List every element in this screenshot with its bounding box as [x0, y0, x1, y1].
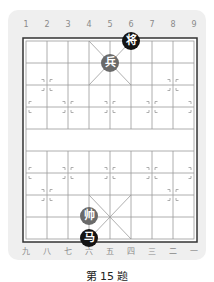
- xiangqi-board: [0, 0, 214, 282]
- red-soldier-piece[interactable]: 兵: [101, 54, 119, 72]
- red-general-piece[interactable]: 帅: [80, 207, 98, 225]
- file-label-6-cn: 六: [82, 247, 96, 257]
- file-label-5-cn: 五: [103, 247, 117, 257]
- black-horse-piece[interactable]: 马: [80, 229, 98, 247]
- file-label-9-cn: 九: [19, 247, 33, 257]
- puzzle-caption: 第 15 题: [0, 271, 214, 282]
- file-label-2-cn: 二: [166, 247, 180, 257]
- file-label-8-cn: 八: [40, 247, 54, 257]
- file-label-1-cn: 一: [187, 247, 201, 257]
- black-general-piece[interactable]: 将: [122, 32, 140, 50]
- file-label-3-cn: 三: [145, 247, 159, 257]
- file-label-4-cn: 四: [124, 247, 138, 257]
- file-label-7-cn: 七: [61, 247, 75, 257]
